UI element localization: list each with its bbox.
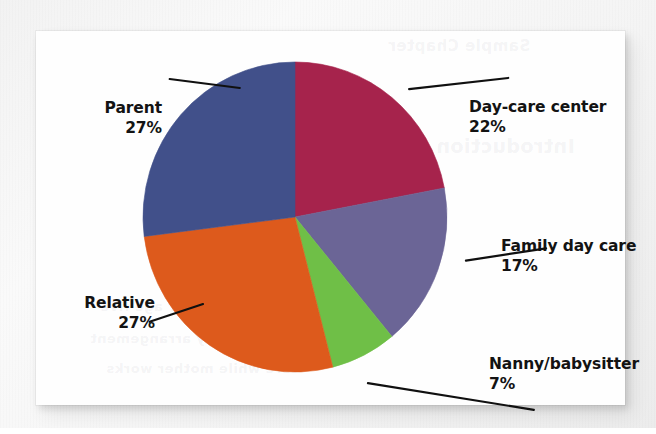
chart-card: Sample Chapter Introduction children und… <box>36 31 625 405</box>
slice-value-parent: 27% <box>105 118 162 138</box>
slice-label-text-parent: Parent <box>105 99 162 117</box>
slice-label-text-family-day-care: Family day care <box>501 237 636 255</box>
slice-value-family-day-care: 17% <box>501 256 636 276</box>
slice-label-family-day-care: Family day care 17% <box>501 236 636 276</box>
slice-label-text-day-care-center: Day-care center <box>469 98 606 116</box>
slice-value-nanny-babysitter: 7% <box>489 374 639 394</box>
slice-label-text-relative: Relative <box>84 294 155 312</box>
pie-slice-group <box>143 62 447 372</box>
slice-value-relative: 27% <box>84 313 155 333</box>
pie-slice-parent <box>143 62 295 236</box>
slice-label-text-nanny-babysitter: Nanny/babysitter <box>489 355 639 373</box>
slice-value-day-care-center: 22% <box>469 117 606 137</box>
slice-label-day-care-center: Day-care center 22% <box>469 97 606 137</box>
slice-label-nanny-babysitter: Nanny/babysitter 7% <box>489 354 639 394</box>
pie-chart <box>36 31 625 405</box>
slice-label-parent: Parent 27% <box>105 98 162 138</box>
slice-label-relative: Relative 27% <box>84 293 155 333</box>
pie-chart-svg <box>36 31 625 405</box>
